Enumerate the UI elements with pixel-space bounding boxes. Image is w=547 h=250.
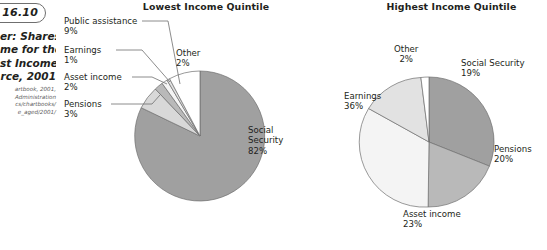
- label-other-name: Other: [176, 48, 200, 58]
- figure-number-label: 16.10: [2, 6, 38, 19]
- chart-panel-highest-income-quintile: Highest Income Quintile Other 2% Social …: [356, 0, 547, 250]
- label-social-security-highest-value: 19%: [461, 68, 525, 78]
- figure-caption: er: Shares me for the st Income rce, 200…: [0, 30, 56, 84]
- label-asset-income-highest: Asset income 23%: [403, 209, 461, 230]
- label-asset-income-lowest: Asset income 2%: [64, 72, 122, 93]
- label-public-assistance-value: 9%: [64, 26, 137, 36]
- label-pensions-highest: Pensions 20%: [494, 144, 532, 165]
- caption-column: 16.10 er: Shares me for the st Income rc…: [0, 0, 56, 250]
- source-line-2: Administration: [0, 94, 56, 102]
- label-asset-income-value: 2%: [64, 82, 122, 92]
- label-asset-income-highest-name: Asset income: [403, 209, 461, 219]
- label-public-assistance-lowest: Public assistance 9%: [64, 16, 137, 37]
- leader-line-asset-income: [132, 77, 167, 84]
- label-other-highest: Other 2%: [394, 44, 418, 65]
- label-earnings-value: 1%: [64, 55, 101, 65]
- label-social-security-lowest: Social Security 82%: [248, 125, 283, 156]
- label-earnings-highest-name: Earnings: [344, 91, 381, 101]
- source-line-3: cs/chartbooks/: [0, 101, 56, 109]
- label-asset-income-name: Asset income: [64, 72, 122, 82]
- caption-line-4: rce, 2001: [0, 70, 56, 83]
- label-social-security-name-1: Social: [248, 125, 273, 135]
- source-line-1: artbook, 2001,: [0, 86, 56, 94]
- label-earnings-highest: Earnings 36%: [344, 91, 381, 112]
- leader-line-public-assistance: [142, 21, 180, 84]
- label-social-security-highest: Social Security 19%: [461, 58, 525, 79]
- pie-chart-lowest: [56, 0, 356, 250]
- caption-line-2: me for the: [0, 43, 56, 56]
- label-other-highest-value: 2%: [394, 54, 418, 64]
- label-earnings-highest-value: 36%: [344, 101, 381, 111]
- figure-number-badge: 16.10: [0, 3, 46, 23]
- label-pensions-value: 3%: [64, 109, 102, 119]
- label-social-security-name-2: Security: [248, 135, 283, 145]
- caption-line-1: er: Shares: [0, 30, 56, 43]
- figure-source-note: artbook, 2001, Administration cs/chartbo…: [0, 86, 56, 116]
- label-social-security-value: 82%: [248, 146, 283, 156]
- label-pensions-lowest: Pensions 3%: [64, 99, 102, 120]
- label-pensions-highest-name: Pensions: [494, 144, 532, 154]
- label-pensions-highest-value: 20%: [494, 154, 532, 164]
- label-other-lowest: Other 2%: [176, 48, 200, 69]
- label-other-value: 2%: [176, 58, 200, 68]
- label-pensions-name: Pensions: [64, 99, 102, 109]
- chart-panel-lowest-income-quintile: Lowest Income Quintile Public: [56, 0, 356, 250]
- caption-line-3: st Income: [0, 57, 56, 70]
- label-earnings-lowest: Earnings 1%: [64, 45, 101, 66]
- label-social-security-highest-name: Social Security: [461, 58, 525, 68]
- source-line-4: e_aged/2001/: [0, 109, 56, 117]
- label-earnings-name: Earnings: [64, 45, 101, 55]
- label-other-highest-name: Other: [394, 44, 418, 54]
- label-public-assistance-name: Public assistance: [64, 16, 137, 26]
- label-asset-income-highest-value: 23%: [403, 219, 461, 229]
